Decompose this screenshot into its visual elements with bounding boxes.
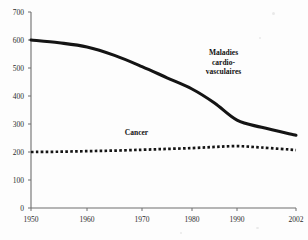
y-tick-label: 500 xyxy=(13,64,25,73)
scan-speck xyxy=(180,232,182,234)
x-tick-label: 2002 xyxy=(289,215,304,224)
series-line-cancer xyxy=(31,146,296,152)
y-tick-label: 100 xyxy=(13,176,25,185)
series-annotations: Maladiescardio-vasculairesCancer xyxy=(125,48,241,136)
series-label-maladies-cardio-vasculaires: Maladiescardio-vasculaires xyxy=(206,48,241,76)
scan-speck xyxy=(259,37,261,39)
x-tick-label: 1960 xyxy=(80,215,95,224)
y-tick-label: 300 xyxy=(13,120,25,129)
chart-page: 0100200300400500600700 19501960197019801… xyxy=(0,0,308,240)
x-tick-label: 1950 xyxy=(24,215,39,224)
y-tick-label: 700 xyxy=(13,8,25,17)
series-line-maladies-cardio-vasculaires xyxy=(31,40,296,135)
y-tick-label: 400 xyxy=(13,92,25,101)
line-chart: 0100200300400500600700 19501960197019801… xyxy=(0,0,308,240)
x-tick-label: 1990 xyxy=(230,215,245,224)
y-axis-tick-labels: 0100200300400500600700 xyxy=(13,8,25,213)
scan-speck xyxy=(256,227,259,229)
series-label-line: Cancer xyxy=(125,128,149,137)
y-tick-label: 600 xyxy=(13,36,25,45)
series-label-line: cardio- xyxy=(212,58,235,67)
series-label-line: vasculaires xyxy=(206,67,241,76)
x-axis-tick-labels: 195019601970198019902002 xyxy=(24,215,304,224)
y-tick-label: 200 xyxy=(13,148,25,157)
scan-speck xyxy=(272,12,275,15)
x-tick-label: 1970 xyxy=(135,215,150,224)
x-tick-label: 1980 xyxy=(185,215,200,224)
series-label-cancer: Cancer xyxy=(125,128,149,137)
y-tick-label: 0 xyxy=(20,204,24,213)
series-label-line: Maladies xyxy=(209,48,238,57)
